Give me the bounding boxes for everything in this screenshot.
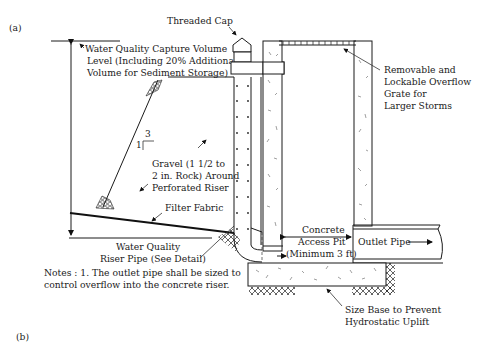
notes-line1: Notes : 1. The outlet pipe shall be size… <box>44 267 241 278</box>
threaded-cap <box>233 38 251 62</box>
pit-label-line1: Concrete <box>302 224 345 235</box>
grate-label-line4: Larger Storms <box>384 100 452 111</box>
filter-fabric-label: Filter Fabric <box>165 202 223 213</box>
grate-label-line3: Grate for <box>384 88 427 99</box>
wqcv-label-line3: Volume for Sediment Storage) <box>86 67 228 78</box>
base-label-line1: Size Base to Prevent <box>345 304 441 315</box>
soil-hatch-base-left <box>249 287 295 295</box>
outlet-pipe-label: Outlet Pipe <box>358 236 411 247</box>
base-label-line2: Hydrostatic Uplift <box>345 316 429 327</box>
riser-label-line1: Water Quality <box>116 241 181 252</box>
rock-pile-toe <box>96 196 114 209</box>
pit-label-line2: Access Pit <box>297 236 346 247</box>
pit-label-line3: (Minimum 3 ft) <box>286 248 357 259</box>
riser-label-line2: Riser Pipe (See Detail) <box>100 253 206 264</box>
base-slab <box>248 263 386 286</box>
grate-label-line1: Removable and <box>384 64 456 75</box>
notes-line2: control overflow into the concrete riser… <box>44 279 230 290</box>
gravel-label-line1: Gravel (1 1/2 to <box>152 158 225 169</box>
threaded-cap-label: Threaded Cap <box>167 15 233 26</box>
riser-outlet-diagram: (a) (b) Water Quality Capture Volume Lev… <box>0 0 479 347</box>
filter-fabric <box>70 213 234 233</box>
gravel-slope <box>103 80 158 207</box>
wqcv-label-line2: Level (Including 20% Additional <box>87 55 237 66</box>
slope-indicator <box>143 141 154 150</box>
slope-rise: 1 <box>136 140 142 150</box>
gravel-label-line3: Perforated Riser <box>152 182 229 193</box>
grate-label-line2: Lockable Overflow <box>384 76 471 87</box>
slope-run: 3 <box>145 129 151 139</box>
rock-pile-top <box>146 80 162 96</box>
gravel-label-line2: 2 in. Rock) Around <box>152 170 240 181</box>
panel-a-label: (a) <box>9 22 22 33</box>
soil-hatch-base-side <box>386 263 395 293</box>
panel-b-label: (b) <box>16 331 29 342</box>
wqcv-label-line1: Water Quality Capture Volume <box>85 43 227 54</box>
